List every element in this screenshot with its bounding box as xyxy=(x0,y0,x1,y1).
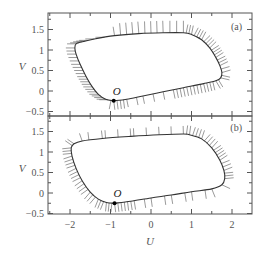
isochron-segment xyxy=(131,201,132,210)
isochron-segment xyxy=(222,185,230,189)
isochron-segment xyxy=(207,83,209,92)
isochron-segment xyxy=(81,189,88,194)
isochron-segment xyxy=(177,89,179,98)
x-tick-label: −2 xyxy=(65,219,76,230)
y-tick-label: 0 xyxy=(39,188,44,199)
isochron-segment xyxy=(111,203,112,212)
panel-label-b: (b) xyxy=(230,122,242,134)
isochron-segment xyxy=(79,133,82,141)
isochron-segment xyxy=(221,67,230,70)
isochron-segment xyxy=(128,202,129,211)
isochron-segment xyxy=(223,164,231,167)
isochron-segment xyxy=(210,82,212,91)
isochron-hatches xyxy=(62,125,233,212)
isochron-segment xyxy=(189,126,190,135)
isochron-segment xyxy=(120,23,121,35)
isochron-segment xyxy=(65,141,72,146)
x-tick-label: 1 xyxy=(189,219,194,230)
isochron-segment xyxy=(193,127,196,136)
phase-portrait-figure: −0.500.511.5O −0.500.511.5O −2−1012 U V … xyxy=(0,0,263,259)
x-axis-label: U xyxy=(146,235,155,247)
isochron-segment xyxy=(84,192,90,199)
point-O-label: O xyxy=(113,85,121,97)
isochron-segment xyxy=(222,70,231,73)
panel-label-a: (a) xyxy=(231,21,242,33)
isochron-segment xyxy=(126,23,127,35)
isochron-segment xyxy=(165,196,166,205)
isochron-segment xyxy=(63,151,72,152)
isochron-segment xyxy=(221,160,229,163)
isochron-segment xyxy=(90,197,96,204)
isochron-segment xyxy=(186,25,188,34)
isochron-segment xyxy=(185,193,186,202)
isochron-segment xyxy=(163,92,165,100)
isochron-segment xyxy=(196,128,199,137)
x-tick-label: 0 xyxy=(149,219,154,230)
isochron-segment xyxy=(199,129,202,138)
isochron-segment xyxy=(153,94,155,102)
isochron-segment xyxy=(144,199,145,208)
isochron-segment xyxy=(71,175,79,179)
isochron-segment xyxy=(64,159,73,162)
y-tick-label: 1.5 xyxy=(32,126,45,137)
isochron-segment xyxy=(73,178,81,182)
isochron-segment xyxy=(117,100,118,109)
point-O-marker xyxy=(112,99,116,103)
isochron-segment xyxy=(67,165,76,168)
y-axis-label-b: V xyxy=(19,162,27,174)
isochron-segment xyxy=(108,203,109,212)
isochron-segment xyxy=(88,132,89,140)
isochron-segment xyxy=(113,27,114,36)
isochron-segment xyxy=(66,162,75,165)
isochron-segment xyxy=(136,97,138,105)
isochron-segment xyxy=(68,168,76,172)
isochron-segment xyxy=(194,86,196,95)
isochron-segment xyxy=(124,202,125,211)
isochron-segment xyxy=(121,202,122,211)
y-tick-label: 1 xyxy=(39,45,44,56)
isochron-segment xyxy=(183,88,185,97)
isochron-segment xyxy=(205,190,206,199)
x-tick-label: 2 xyxy=(230,219,235,230)
isochron-segment xyxy=(63,156,72,159)
isochron-segment xyxy=(219,59,227,63)
isochron-segment xyxy=(143,96,145,104)
isochron-segment xyxy=(221,75,230,77)
y-tick-label: 1 xyxy=(39,147,44,158)
isochron-segment xyxy=(98,200,101,208)
x-axis-tick-labels: −2−1012 xyxy=(65,219,235,230)
isochron-segment xyxy=(118,203,119,212)
isochron-segment xyxy=(70,171,78,175)
panel-b: −0.500.511.5O xyxy=(26,116,252,219)
isochron-segment xyxy=(101,131,102,139)
isochron-segment xyxy=(106,202,107,211)
isochron-segment xyxy=(63,153,72,154)
isochron-segment xyxy=(130,128,131,136)
isochron-segment xyxy=(220,62,228,66)
isochron-segment xyxy=(62,148,71,149)
isochron-segment xyxy=(79,186,86,191)
isochron-segment xyxy=(192,26,194,35)
isochron-segment xyxy=(173,90,175,99)
isochron-segment xyxy=(224,172,233,173)
isochron-segment xyxy=(212,189,215,197)
isochron-segment xyxy=(202,130,205,139)
isochron-hatches xyxy=(66,21,231,110)
y-tick-label: 0 xyxy=(39,86,44,97)
isochron-segment xyxy=(118,129,119,137)
isochron-segment xyxy=(138,22,139,34)
isochron-segment xyxy=(151,198,152,207)
isochron-segment xyxy=(134,201,135,210)
isochron-segment xyxy=(224,167,232,170)
isochron-segment xyxy=(171,195,172,204)
isochron-segment xyxy=(105,130,106,138)
isochron-segment xyxy=(224,175,233,176)
isochron-segment xyxy=(192,192,193,201)
y-tick-label: −0.5 xyxy=(26,106,44,117)
isochron-segment xyxy=(95,199,98,207)
y-tick-label: −0.5 xyxy=(26,208,44,219)
isochron-segment xyxy=(204,84,206,93)
isochron-segment xyxy=(120,100,121,109)
plot-frame xyxy=(48,116,252,214)
isochron-segment xyxy=(200,84,202,93)
